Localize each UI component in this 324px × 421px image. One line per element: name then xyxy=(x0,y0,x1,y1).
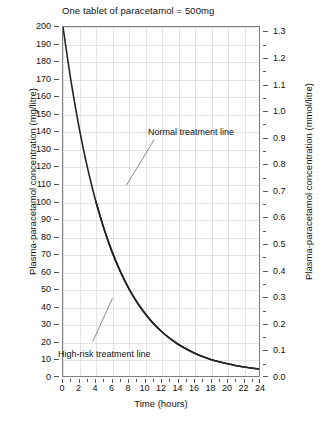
x-axis-tick xyxy=(169,379,170,382)
x-axis-tick xyxy=(186,379,187,382)
y-axis-left-tick-label: 30 xyxy=(41,319,51,329)
y-axis-left-tick xyxy=(54,359,59,360)
y-axis-left-tick xyxy=(54,96,59,97)
y-axis-right-tick-label: 0.2 xyxy=(273,319,286,329)
y-axis-left-tick xyxy=(54,376,59,377)
y-axis-right-tick xyxy=(263,271,268,272)
y-axis-right: 0.00.10.20.30.40.50.60.70.80.91.01.11.21… xyxy=(262,26,324,377)
y-axis-left-tick-label: 80 xyxy=(41,232,51,242)
x-axis-tick-label: 12 xyxy=(156,383,166,393)
y-axis-left-tick xyxy=(54,61,59,62)
y-axis-left-tick-label: 90 xyxy=(41,214,51,224)
chart-root: One tablet of paracetamol = 500mg 010203… xyxy=(0,0,324,421)
x-axis-title: Time (hours) xyxy=(62,398,260,409)
y-axis-right-tick-label: 1.3 xyxy=(273,26,286,36)
y-axis-left-tick xyxy=(54,219,59,220)
y-axis-right-tick xyxy=(263,111,268,112)
y-axis-right-tick xyxy=(263,217,268,218)
curve-high-risk-treatment-line xyxy=(96,201,259,369)
y-axis-left-tick xyxy=(54,114,59,115)
y-axis-left-tick-label: 40 xyxy=(41,302,51,312)
y-axis-right-tick-label: 0.7 xyxy=(273,186,286,196)
y-axis-left-tick xyxy=(54,307,59,308)
y-axis-left-tick-label: 100 xyxy=(36,197,51,207)
y-axis-left-tick-label: 0 xyxy=(46,372,51,382)
y-axis-right-tick xyxy=(263,204,266,205)
y-axis-right-tick xyxy=(263,31,268,32)
curve-normal-treatment-line xyxy=(63,27,259,369)
y-axis-right-tick xyxy=(263,45,266,46)
x-axis-tick-label: 8 xyxy=(125,383,130,393)
curve-layer xyxy=(63,27,259,374)
y-axis-right-tick xyxy=(263,337,266,338)
y-axis-right-tick-label: 0.5 xyxy=(273,239,286,249)
y-axis-right-tick xyxy=(263,231,266,232)
y-axis-left-tick xyxy=(54,202,59,203)
plot-area xyxy=(62,26,260,377)
x-axis: 024681012141618202224 xyxy=(62,379,260,397)
y-axis-right-tick xyxy=(263,178,266,179)
y-axis-left-tick-label: 180 xyxy=(36,56,51,66)
y-axis-right-tick xyxy=(263,58,268,59)
y-axis-right-tick xyxy=(263,244,268,245)
annotation-leader-line xyxy=(126,140,154,186)
y-axis-right-tick xyxy=(263,124,266,125)
x-axis-tick-label: 10 xyxy=(139,383,149,393)
y-axis-right-tick xyxy=(263,98,266,99)
y-axis-right-title: Plasma-paracetamol concentration (mmol/l… xyxy=(303,62,314,302)
y-axis-left-tick xyxy=(54,26,59,27)
x-axis-tick-label: 14 xyxy=(172,383,182,393)
x-axis-tick-label: 0 xyxy=(59,383,64,393)
x-axis-tick xyxy=(120,379,121,382)
x-axis-tick xyxy=(70,379,71,382)
y-axis-right-tick-label: 0.9 xyxy=(273,133,286,143)
y-axis-right-tick xyxy=(263,85,268,86)
chart-title: One tablet of paracetamol = 500mg xyxy=(62,5,215,16)
y-axis-right-tick xyxy=(263,151,266,152)
annotation-leader-line xyxy=(93,298,113,342)
x-axis-tick-label: 16 xyxy=(189,383,199,393)
y-axis-left-tick-label: 110 xyxy=(37,179,51,189)
y-axis-left-tick xyxy=(54,324,59,325)
y-axis-left-tick-label: 190 xyxy=(36,39,51,49)
y-axis-right-tick-label: 0.0 xyxy=(273,372,286,382)
annotation-normal-treatment-line: Normal treatment line xyxy=(148,127,234,137)
y-axis-right-tick xyxy=(263,191,268,192)
y-axis-left-tick-label: 170 xyxy=(36,74,51,84)
y-axis-right-tick xyxy=(263,297,268,298)
x-axis-tick xyxy=(153,379,154,382)
y-axis-right-tick-label: 0.1 xyxy=(273,345,286,355)
y-axis-right-tick-label: 1.1 xyxy=(273,80,286,90)
y-axis-right-tick-label: 0.3 xyxy=(273,292,286,302)
x-axis-tick xyxy=(136,379,137,382)
y-axis-left-tick xyxy=(54,44,59,45)
y-axis-left-tick-label: 200 xyxy=(36,21,51,31)
y-axis-right-tick xyxy=(263,257,266,258)
y-axis-right-tick xyxy=(263,324,268,325)
x-axis-tick xyxy=(202,379,203,382)
y-axis-left-tick-label: 120 xyxy=(36,161,51,171)
y-axis-right-tick-label: 0.6 xyxy=(273,212,286,222)
annotation-high-risk-treatment-line: High-risk treatment line xyxy=(58,349,151,359)
x-axis-tick xyxy=(103,379,104,382)
y-axis-right-tick xyxy=(263,71,266,72)
y-axis-left-tick-label: 60 xyxy=(41,267,51,277)
x-axis-tick xyxy=(235,379,236,382)
y-axis-left-tick xyxy=(54,272,59,273)
y-axis-left-tick xyxy=(54,131,59,132)
y-axis-left-tick xyxy=(54,166,59,167)
x-axis-tick-label: 20 xyxy=(222,383,232,393)
y-axis-right-tick xyxy=(263,138,268,139)
y-axis-left-tick-label: 160 xyxy=(36,91,51,101)
y-axis-left-tick xyxy=(54,289,59,290)
y-axis-left-tick xyxy=(54,342,59,343)
y-axis-right-tick-label: 0.4 xyxy=(273,266,286,276)
y-axis-right-tick-label: 1.2 xyxy=(273,53,286,63)
x-axis-tick-label: 24 xyxy=(255,383,265,393)
y-axis-right-tick-label: 0.8 xyxy=(273,159,286,169)
y-axis-right-tick xyxy=(263,164,268,165)
y-axis-right-tick-label: 1.0 xyxy=(273,106,286,116)
x-axis-tick-label: 2 xyxy=(76,383,81,393)
y-axis-left-tick xyxy=(54,149,59,150)
y-axis-left-tick-label: 140 xyxy=(36,126,51,136)
